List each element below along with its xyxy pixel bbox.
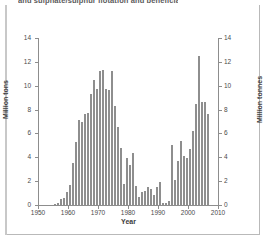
y-axis-left-tick <box>35 62 38 63</box>
y-axis-right-tick <box>219 181 222 182</box>
y-axis-left-tick <box>35 38 38 39</box>
y-axis-left-tick-label: 6 <box>17 129 31 136</box>
bar <box>206 114 209 205</box>
y-axis-right-tick-label: 10 <box>224 82 238 89</box>
x-axis-tick-label: 1980 <box>115 209 141 217</box>
y-axis-left-title: Million tons <box>2 80 9 119</box>
y-axis-left-tick <box>35 86 38 87</box>
y-axis-left-tick-label: 4 <box>17 153 31 160</box>
x-axis-tick-label: 2000 <box>175 209 201 217</box>
y-axis-left-tick <box>35 181 38 182</box>
y-axis-left-tick <box>35 133 38 134</box>
bar-series <box>38 38 219 205</box>
y-axis-right-tick-label: 6 <box>224 129 238 136</box>
y-axis-left-tick-label: 8 <box>17 106 31 113</box>
y-axis-right-tick <box>219 157 222 158</box>
y-axis-right-tick-label: 2 <box>224 177 238 184</box>
bar <box>158 182 161 205</box>
y-axis-right-tick <box>219 205 222 206</box>
y-axis-right-tick-label: 14 <box>224 34 238 41</box>
y-axis-left-tick <box>35 157 38 158</box>
y-axis-right-tick <box>219 38 222 39</box>
y-axis-right-tick <box>219 62 222 63</box>
y-axis-left-tick <box>35 110 38 111</box>
y-axis-right-tick <box>219 133 222 134</box>
y-axis-left-tick-label: 14 <box>17 34 31 41</box>
y-axis-left-tick-label: 0 <box>17 201 31 208</box>
y-axis-right-tick-label: 4 <box>224 153 238 160</box>
x-axis-tick-label: 1950 <box>25 209 51 217</box>
y-axis-left-tick-label: 12 <box>17 58 31 65</box>
y-axis-right-tick-label: 12 <box>224 58 238 65</box>
figure-border-accent <box>5 5 7 235</box>
x-axis-title: Year <box>38 218 219 225</box>
y-axis-right-tick <box>219 86 222 87</box>
y-axis-right-title: Million tonnes <box>256 76 263 123</box>
y-axis-right-tick <box>219 110 222 111</box>
y-axis-right-tick-label: 8 <box>224 106 238 113</box>
x-axis-tick-label: 1970 <box>85 209 111 217</box>
y-axis-right-tick-label: 0 <box>224 201 238 208</box>
x-axis-tick-label: 2010 <box>205 209 231 217</box>
y-axis-left-tick-label: 2 <box>17 177 31 184</box>
x-axis-tick-label: 1990 <box>145 209 171 217</box>
x-axis-tick-label: 1960 <box>55 209 81 217</box>
figure-container: and sulphate/sulphur flotation and benef… <box>0 0 267 247</box>
y-axis-left-tick-label: 10 <box>17 82 31 89</box>
